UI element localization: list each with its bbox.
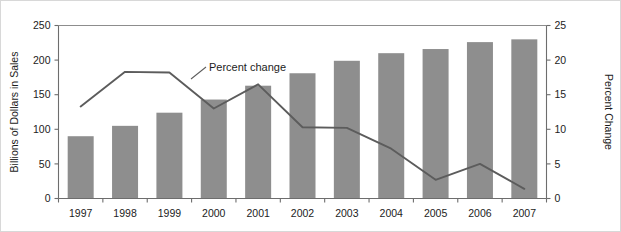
bar-2001: [245, 86, 271, 199]
left-axis-title: Billions of Dollars in Sales: [8, 52, 20, 173]
left-axis-ticks: 050100150200250: [33, 19, 59, 204]
bar-2000: [201, 100, 227, 199]
category-label-1999: 1999: [158, 207, 182, 219]
category-label-2001: 2001: [246, 207, 270, 219]
annotation-leader-line: [191, 67, 206, 79]
category-axis-ticks: 1997199819992000200120022003200420052006…: [59, 199, 547, 219]
right-tick-label-25: 25: [555, 19, 567, 31]
right-axis-ticks: 0510152025: [547, 19, 567, 204]
left-tick-label-50: 50: [39, 158, 51, 170]
bar-2002: [290, 73, 316, 198]
bar-2006: [467, 42, 493, 198]
category-label-1997: 1997: [69, 207, 93, 219]
category-label-2003: 2003: [335, 207, 359, 219]
bar-2007: [511, 39, 537, 198]
left-tick-label-0: 0: [45, 192, 51, 204]
bar-1997: [68, 136, 94, 198]
bar-2003: [334, 61, 360, 199]
annotation-label: Percent change: [209, 61, 286, 73]
left-tick-label-100: 100: [33, 123, 51, 135]
dual-axis-combo-chart: 050100150200250 0510152025 1997199819992…: [1, 1, 621, 232]
right-tick-label-20: 20: [555, 54, 567, 66]
left-tick-label-250: 250: [33, 19, 51, 31]
category-label-2000: 2000: [202, 207, 226, 219]
left-tick-label-150: 150: [33, 88, 51, 100]
bar-series: [68, 39, 538, 198]
bar-1998: [112, 126, 138, 199]
left-tick-label-200: 200: [33, 54, 51, 66]
right-tick-label-5: 5: [555, 158, 561, 170]
category-label-2007: 2007: [513, 207, 537, 219]
category-label-2005: 2005: [424, 207, 448, 219]
bar-2004: [378, 53, 404, 198]
category-label-1998: 1998: [113, 207, 137, 219]
right-tick-label-0: 0: [555, 192, 561, 204]
bar-1999: [156, 113, 182, 199]
category-label-2002: 2002: [291, 207, 315, 219]
percent-change-annotation: Percent change: [191, 61, 286, 79]
category-label-2006: 2006: [468, 207, 492, 219]
category-label-2004: 2004: [380, 207, 404, 219]
chart-figure: 050100150200250 0510152025 1997199819992…: [0, 0, 621, 232]
right-axis-title: Percent Change: [603, 74, 615, 150]
right-tick-label-15: 15: [555, 88, 567, 100]
right-tick-label-10: 10: [555, 123, 567, 135]
